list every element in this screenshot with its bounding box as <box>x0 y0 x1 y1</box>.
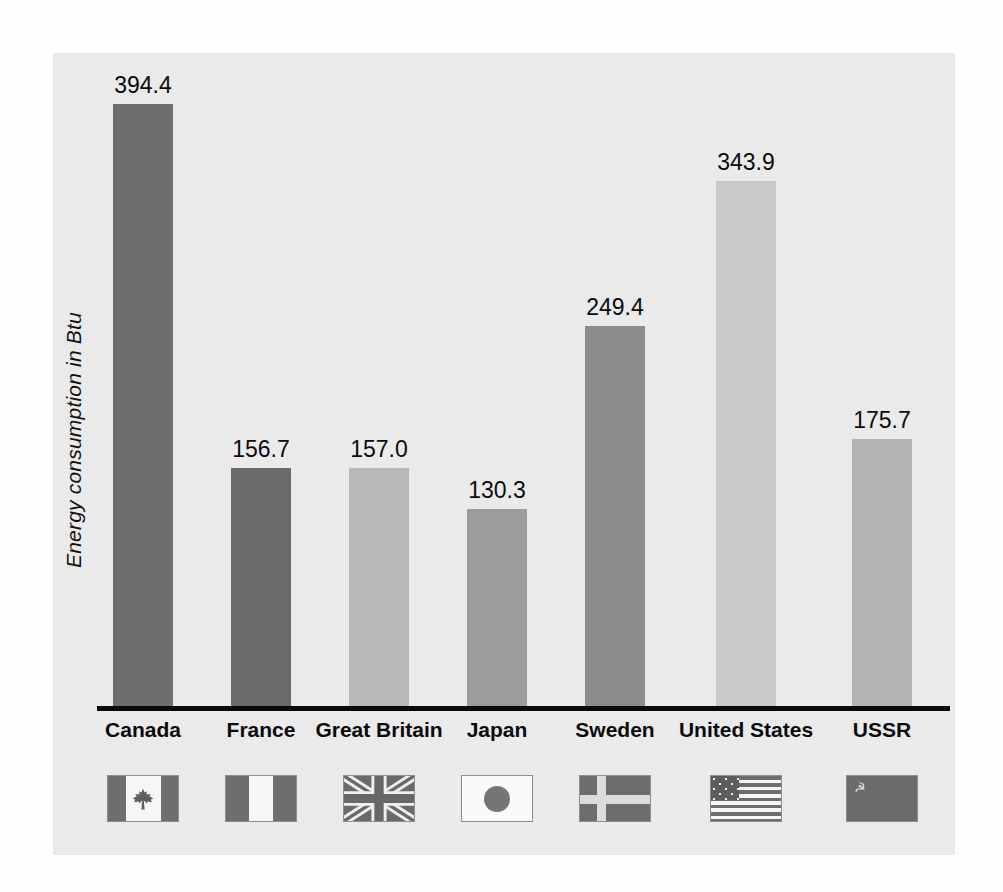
japan-sun-disc <box>484 786 510 812</box>
bar-value-japan: 130.3 <box>468 477 526 504</box>
bar-france[interactable] <box>231 468 291 708</box>
bar-value-sweden: 249.4 <box>586 294 644 321</box>
category-label-united-states: United States <box>666 718 826 742</box>
chart-page: Energy consumption in Btu 394.4 156.7 15… <box>0 0 1003 892</box>
flag-ussr-icon: ☭ <box>846 775 918 822</box>
flag-slot-france <box>225 775 297 823</box>
flag-united-states-icon <box>710 775 782 822</box>
category-label-japan: Japan <box>437 718 557 742</box>
bar-ussr[interactable] <box>852 439 912 708</box>
bar-japan[interactable] <box>467 509 527 708</box>
bar-slot-canada: 394.4 <box>113 104 173 708</box>
bar-united-states[interactable] <box>716 181 776 708</box>
y-axis-title: Energy consumption in Btu <box>62 230 86 650</box>
bar-value-ussr: 175.7 <box>853 407 911 434</box>
canada-left-band <box>108 776 126 821</box>
flag-slot-japan <box>461 775 533 823</box>
category-label-great-britain: Great Britain <box>299 718 459 742</box>
plot-area: 394.4 156.7 157.0 130.3 249.4 343.9 <box>100 60 950 708</box>
canada-right-band <box>161 776 179 821</box>
maple-leaf-icon <box>131 787 155 811</box>
category-label-canada: Canada <box>83 718 203 742</box>
category-label-ussr: USSR <box>822 718 942 742</box>
bar-great-britain[interactable] <box>349 468 409 708</box>
sweden-cross-horizontal <box>580 795 650 804</box>
category-labels-row: Canada France Great Britain Japan Sweden… <box>100 718 950 752</box>
usa-canton-stars <box>711 776 739 800</box>
bar-slot-ussr: 175.7 <box>852 439 912 708</box>
bar-slot-japan: 130.3 <box>467 509 527 708</box>
union-jack-svg <box>344 776 414 821</box>
bar-slot-united-states: 343.9 <box>716 181 776 708</box>
hammer-and-sickle-icon: ☭ <box>854 781 866 794</box>
france-band-3 <box>273 776 296 821</box>
bar-value-great-britain: 157.0 <box>350 436 408 463</box>
bar-slot-sweden: 249.4 <box>585 326 645 708</box>
flags-row: ☭ <box>100 775 950 833</box>
flag-sweden-icon <box>579 775 651 822</box>
category-label-sweden: Sweden <box>555 718 675 742</box>
flag-slot-great-britain <box>343 775 415 823</box>
flag-canada-icon <box>107 775 179 822</box>
flag-japan-icon <box>461 775 533 822</box>
bar-slot-france: 156.7 <box>231 468 291 708</box>
bar-value-united-states: 343.9 <box>717 149 775 176</box>
x-axis-baseline <box>97 706 950 711</box>
flag-slot-canada <box>107 775 179 823</box>
flag-slot-ussr: ☭ <box>846 775 918 823</box>
bar-canada[interactable] <box>113 104 173 708</box>
bar-sweden[interactable] <box>585 326 645 708</box>
bar-value-france: 156.7 <box>232 436 290 463</box>
flag-slot-sweden <box>579 775 651 823</box>
france-band-2 <box>249 776 272 821</box>
bar-value-canada: 394.4 <box>114 72 172 99</box>
bar-slot-great-britain: 157.0 <box>349 468 409 708</box>
flag-united-kingdom-icon <box>343 775 415 822</box>
flag-slot-united-states <box>710 775 782 823</box>
france-band-1 <box>226 776 249 821</box>
flag-france-icon <box>225 775 297 822</box>
